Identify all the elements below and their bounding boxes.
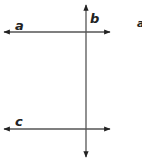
- parallel-lines-diagram: a b c a: [0, 0, 142, 165]
- label-a: a: [15, 18, 24, 33]
- extra-label-a: a: [137, 17, 142, 30]
- label-b: b: [90, 11, 99, 26]
- label-c: c: [15, 114, 23, 129]
